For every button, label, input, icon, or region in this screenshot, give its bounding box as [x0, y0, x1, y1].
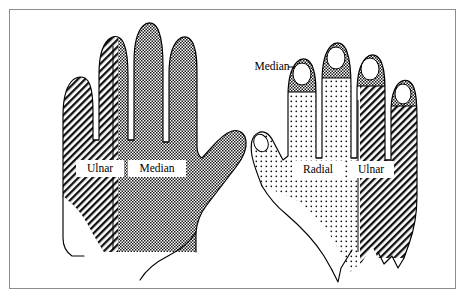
- label-left-ulnar-text: Ulnar: [87, 162, 113, 174]
- left-hand-palmar-view: [50, 0, 260, 300]
- label-left-ulnar: Ulnar: [76, 160, 124, 177]
- label-left-median-text: Median: [139, 162, 174, 174]
- label-right-radial: Radial: [292, 161, 344, 178]
- right-hand-dorsal-view: [240, 0, 440, 300]
- hand-diagram-svg: Ulnar Median Median Radial Ulnar: [0, 0, 467, 300]
- label-right-median: Median: [254, 60, 295, 72]
- label-left-median: Median: [128, 160, 186, 177]
- label-right-ulnar-text: Ulnar: [358, 163, 384, 175]
- label-right-ulnar: Ulnar: [348, 161, 394, 178]
- right-hand-index-nail: [293, 63, 311, 85]
- right-hand-middle-nail: [327, 47, 345, 69]
- label-right-median-text: Median: [254, 60, 289, 72]
- nerve-distribution-figure: Ulnar Median Median Radial Ulnar: [0, 0, 467, 300]
- right-hand-little-nail: [395, 84, 411, 104]
- label-right-radial-text: Radial: [303, 163, 333, 175]
- right-hand-ring-nail: [361, 58, 379, 80]
- left-hand-wrist-blank: [96, 252, 210, 300]
